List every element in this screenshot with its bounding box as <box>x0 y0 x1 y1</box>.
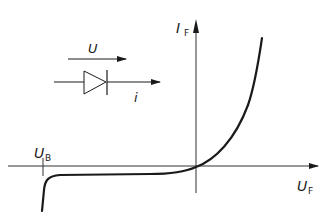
breakdown-label-subscript: B <box>45 153 51 163</box>
diode-symbol <box>54 59 160 95</box>
iv-curve <box>42 38 262 211</box>
diode-triangle-icon <box>84 71 106 94</box>
breakdown-label: U <box>34 145 44 161</box>
x-axis-label-subscript: F <box>308 186 313 196</box>
diode-characteristic-diagram: U i I F U F U B <box>0 0 335 217</box>
y-axis-label-subscript: F <box>184 28 189 38</box>
x-axis-label: U <box>297 178 307 194</box>
y-axis-arrow-icon <box>193 19 199 33</box>
y-axis-label: I <box>176 20 180 36</box>
current-label: i <box>134 90 138 105</box>
voltage-label: U <box>88 41 98 56</box>
